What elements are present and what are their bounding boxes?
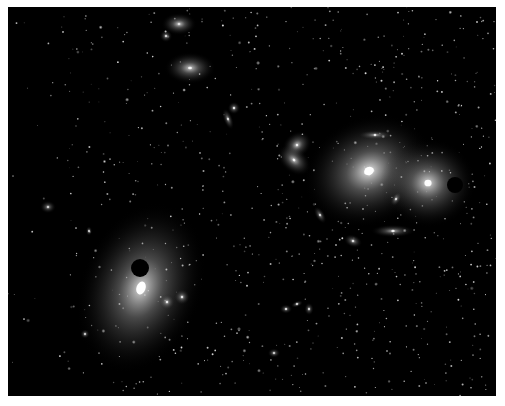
star [421,87,422,88]
star [243,355,244,356]
star [406,78,408,80]
star [337,11,339,13]
star [181,347,183,349]
star [479,333,481,335]
star [141,127,143,129]
star [341,237,343,239]
star [83,91,84,92]
star [342,47,343,48]
star [301,123,303,125]
star [414,266,416,268]
star [413,282,414,283]
star [377,36,379,38]
star [207,359,208,360]
star [72,144,73,145]
star [109,158,111,160]
star [270,359,272,361]
star [221,322,222,323]
star [456,46,457,47]
star [403,19,404,20]
star [366,14,368,16]
star [263,373,264,374]
star [23,318,25,320]
star [245,246,247,248]
star [248,42,250,44]
star [201,391,202,392]
star [164,152,166,154]
star [67,160,68,161]
star [216,219,217,220]
star [477,35,478,36]
star [414,252,415,253]
star [374,361,375,362]
star [152,110,154,112]
star [230,50,231,51]
star [70,274,71,275]
star [358,229,359,230]
star [447,51,449,53]
star [31,231,33,233]
star [77,166,80,169]
star [89,102,90,103]
star [216,237,217,238]
star [421,338,422,339]
star [423,327,426,330]
star [203,170,205,172]
star [384,87,387,90]
star [319,249,320,250]
star [286,223,288,225]
star [301,196,302,197]
occulting-disk-right [447,177,463,193]
star [210,131,211,132]
star [362,233,363,234]
star [167,145,169,147]
star [277,203,280,206]
star [222,25,224,27]
star [389,341,391,343]
star [154,147,155,148]
star [327,308,328,309]
star [368,273,369,274]
star [449,341,451,343]
star [235,280,236,281]
star [413,260,414,261]
star [404,274,406,276]
star [448,10,452,14]
star [186,42,187,43]
star [470,286,474,290]
star [229,152,231,154]
star [479,202,480,203]
star [305,373,307,375]
star [481,146,482,147]
star [211,220,213,222]
star [358,65,361,68]
star [355,330,358,333]
star [296,341,298,343]
star [365,72,367,74]
star [157,393,158,394]
star [466,213,467,214]
star [405,114,407,116]
star [179,349,183,353]
star [61,26,62,27]
star [375,77,376,78]
star [491,238,492,239]
star [261,131,263,133]
star [386,350,388,352]
star [138,127,139,128]
star [421,51,423,53]
star [269,390,271,392]
star [451,73,452,74]
star [381,80,383,82]
star [474,335,476,337]
star [405,346,407,348]
star [374,331,375,332]
star [185,147,187,149]
star [357,357,359,359]
star [332,229,333,230]
star [214,350,216,352]
star [290,130,291,131]
star [269,124,270,125]
star [110,132,111,133]
star [230,94,231,95]
